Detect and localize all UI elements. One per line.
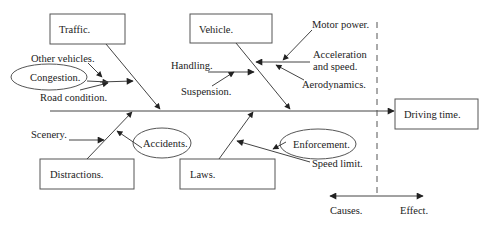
distractions-label: Distractions. [50, 169, 103, 180]
laws-bone-arrow [219, 112, 253, 159]
cause-aerodynamics: Aerodynamics. [302, 79, 366, 90]
category-distractions: Distractions. Scenery. Accidents. [31, 112, 191, 189]
cause-congestion: Congestion. [30, 72, 80, 83]
vehicle-label: Vehicle. [199, 24, 233, 35]
category-laws: Laws. Enforcement. Speed limit. [180, 112, 363, 189]
cause-other-vehicles: Other vehicles. [31, 53, 95, 64]
cause-road-condition: Road condition. [40, 92, 107, 103]
enforcement-arrow [273, 142, 286, 149]
road-condition-arrow [80, 83, 108, 90]
cause-suspension: Suspension. [181, 86, 231, 97]
cause-acceleration-line2: and speed. [313, 61, 357, 72]
motor-power-arrow [283, 30, 312, 60]
cause-speed-limit: Speed limit. [312, 158, 363, 169]
category-traffic: Traffic. Other vehicles. Congestion. Roa… [11, 14, 160, 109]
accidents-arrow [117, 131, 142, 148]
effect-box: Driving time. [395, 99, 478, 129]
aerodynamics-arrow [276, 65, 304, 80]
cause-motor-power: Motor power. [312, 19, 369, 30]
cause-enforcement: Enforcement. [293, 139, 350, 150]
cause-handling: Handling. [171, 60, 213, 71]
category-vehicle: Vehicle. Handling. Suspension. Motor pow… [171, 14, 369, 109]
traffic-bone-arrow [106, 44, 160, 109]
traffic-subbone-arrow [100, 81, 133, 82]
laws-label: Laws. [190, 169, 215, 180]
direction-legend: Causes. Effect. [330, 196, 428, 216]
vehicle-bone-arrow [236, 43, 290, 109]
cause-acceleration-line1: Acceleration [313, 49, 367, 60]
cause-accidents: Accidents. [143, 138, 188, 149]
fishbone-diagram: Driving time. Traffic. Other vehicles. C… [0, 0, 501, 225]
cause-scenery: Scenery. [31, 129, 67, 140]
other-vehicles-arrow [88, 63, 102, 77]
effect-label: Driving time. [404, 109, 461, 120]
suspension-arrow [212, 72, 234, 86]
distractions-bone-arrow [87, 112, 132, 159]
effect-legend-label: Effect. [400, 205, 428, 216]
causes-legend-label: Causes. [330, 205, 362, 216]
traffic-label: Traffic. [59, 24, 90, 35]
